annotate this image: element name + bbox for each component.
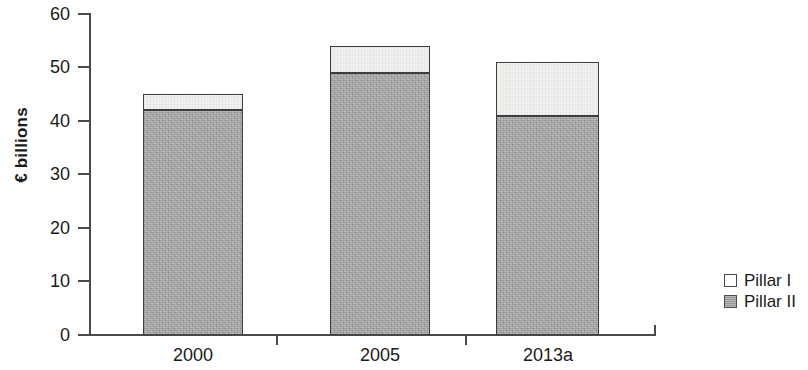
chart-figure: € billions 60 50 40 30 20 10 0 2000 2005… — [0, 0, 808, 370]
legend-label-pillar-i: Pillar I — [744, 272, 791, 289]
y-tick-label-0: 0 — [10, 326, 70, 344]
y-axis-line — [89, 13, 91, 336]
y-tick-20 — [78, 227, 89, 229]
bar-segment-pillar-i — [330, 46, 430, 73]
bar-group-2000 — [143, 14, 243, 335]
y-tick-50 — [78, 66, 89, 68]
y-tick-30 — [78, 173, 89, 175]
x-tick-label-2005: 2005 — [320, 346, 440, 364]
legend-item-pillar-ii[interactable]: Pillar II — [724, 291, 796, 311]
legend-swatch-pillar-ii-icon — [724, 295, 737, 308]
y-tick-0 — [78, 334, 89, 336]
y-tick-label-60: 60 — [10, 5, 70, 23]
y-tick-label-20: 20 — [10, 219, 70, 237]
y-tick-label-30: 30 — [10, 165, 70, 183]
bar-group-2013a — [496, 14, 599, 335]
bar-segment-pillar-i — [143, 94, 243, 110]
legend-label-pillar-ii: Pillar II — [744, 293, 796, 310]
y-tick-label-10: 10 — [10, 272, 70, 290]
y-tick-40 — [78, 120, 89, 122]
bar-segment-pillar-ii — [330, 73, 430, 335]
x-tick-1 — [465, 335, 467, 345]
bar-segment-pillar-i — [496, 62, 599, 116]
chart-legend: Pillar I Pillar II — [724, 270, 796, 312]
x-tick-label-2000: 2000 — [133, 346, 253, 364]
x-tick-0 — [276, 335, 278, 345]
y-tick-label-40: 40 — [10, 112, 70, 130]
x-axis-end-tick — [654, 325, 656, 336]
y-tick-10 — [78, 280, 89, 282]
legend-swatch-pillar-i-icon — [724, 274, 737, 287]
bar-segment-pillar-ii — [496, 116, 599, 335]
y-tick-label-50: 50 — [10, 58, 70, 76]
bar-group-2005 — [330, 14, 430, 335]
legend-item-pillar-i[interactable]: Pillar I — [724, 270, 796, 290]
x-tick-label-2013a: 2013a — [488, 346, 608, 364]
bar-segment-pillar-ii — [143, 110, 243, 335]
y-tick-label-group: 60 50 40 30 20 10 0 — [8, 0, 70, 370]
y-tick-60 — [78, 13, 89, 15]
